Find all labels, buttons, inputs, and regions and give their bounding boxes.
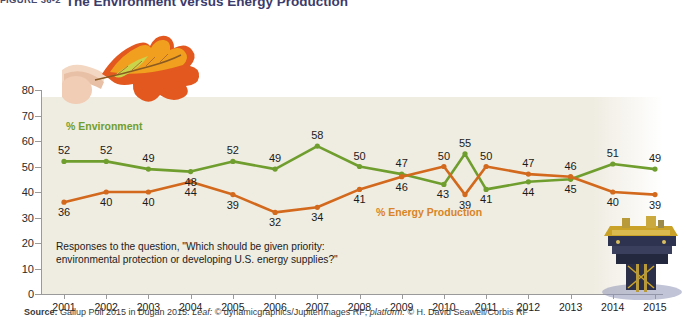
data-point	[462, 192, 467, 197]
data-point	[568, 174, 573, 179]
x-tick	[233, 294, 234, 299]
x-tick	[360, 294, 361, 299]
y-tick	[35, 167, 42, 168]
data-point-label: 58	[302, 130, 332, 141]
data-point	[273, 210, 278, 215]
data-point-label: 40	[91, 197, 121, 208]
data-point	[652, 167, 657, 172]
y-tick-label: 0	[0, 289, 34, 299]
data-point-label: 45	[556, 184, 586, 195]
y-tick	[35, 90, 42, 91]
chart-annotation: Responses to the question, "Which should…	[56, 240, 356, 266]
x-tick	[444, 294, 445, 299]
data-point	[526, 179, 531, 184]
data-point	[230, 192, 235, 197]
data-point	[610, 189, 615, 194]
y-tick	[35, 218, 42, 219]
data-point-label: 47	[513, 158, 543, 169]
y-tick	[35, 294, 42, 295]
source-credit-leaf: Leaf:	[192, 307, 212, 317]
data-point	[146, 167, 151, 172]
data-point-label: 39	[640, 200, 670, 211]
data-point	[484, 164, 489, 169]
x-tick	[148, 294, 149, 299]
data-point-label: 51	[598, 148, 628, 159]
data-point-label: 39	[218, 200, 248, 211]
data-point	[357, 187, 362, 192]
data-point	[357, 164, 362, 169]
data-point	[104, 159, 109, 164]
y-tick-label: 60	[0, 136, 34, 146]
page-title: The Environment versus Energy Production	[66, 0, 348, 9]
data-point-label: 52	[218, 145, 248, 156]
y-tick	[35, 141, 42, 142]
data-point-label: 44	[176, 187, 206, 198]
x-tick	[317, 294, 318, 299]
source-caption: Source: Gallup Poll 2015 in Dugan 2015. …	[24, 307, 692, 317]
oil-platform-icon	[592, 212, 690, 300]
data-point	[315, 205, 320, 210]
data-point-label: 50	[471, 151, 501, 162]
x-tick	[275, 294, 276, 299]
y-tick-label: 70	[0, 111, 34, 121]
source-text-2: © dynamicgraphics/JupiterImages RF;	[212, 307, 370, 317]
data-point-label: 44	[513, 187, 543, 198]
y-tick	[35, 269, 42, 270]
data-point	[484, 187, 489, 192]
data-point-label: 36	[49, 207, 79, 218]
data-point-label: 32	[260, 217, 290, 228]
source-credit-platform: platform:	[370, 307, 405, 317]
y-tick-label: 30	[0, 213, 34, 223]
data-point-label: 41	[345, 194, 375, 205]
x-tick	[106, 294, 107, 299]
data-point	[61, 200, 66, 205]
y-tick-label: 80	[0, 85, 34, 95]
legend-energy-production: % Energy Production	[376, 206, 482, 218]
x-tick	[402, 294, 403, 299]
y-tick-label: 40	[0, 187, 34, 197]
data-point	[610, 161, 615, 166]
data-point-label: 50	[429, 151, 459, 162]
source-text-3: © H. David Seawell/Corbis RF	[405, 307, 528, 317]
data-point-label: 40	[598, 197, 628, 208]
figure-container: FIGURE 36-2The Environment versus Energy…	[0, 0, 692, 324]
x-tick	[486, 294, 487, 299]
y-tick-label: 50	[0, 162, 34, 172]
data-point-label: 50	[345, 151, 375, 162]
data-point-label: 49	[260, 153, 290, 164]
x-tick	[528, 294, 529, 299]
data-point	[146, 189, 151, 194]
legend-environment: % Environment	[66, 120, 142, 132]
x-tick	[191, 294, 192, 299]
data-point-label: 49	[133, 153, 163, 164]
data-point	[61, 159, 66, 164]
data-point	[441, 182, 446, 187]
figure-title-bar: FIGURE 36-2The Environment versus Energy…	[0, 0, 692, 12]
data-point-label: 52	[91, 145, 121, 156]
x-tick	[571, 294, 572, 299]
data-point	[526, 172, 531, 177]
data-point	[104, 189, 109, 194]
y-tick	[35, 243, 42, 244]
data-point	[652, 192, 657, 197]
y-tick	[35, 192, 42, 193]
data-point-label: 46	[556, 161, 586, 172]
data-point	[315, 144, 320, 149]
data-point	[188, 169, 193, 174]
data-point	[441, 164, 446, 169]
data-point-label: 47	[387, 158, 417, 169]
x-tick	[64, 294, 65, 299]
data-point-label: 55	[450, 138, 480, 149]
data-point-label: 46	[387, 182, 417, 193]
source-prefix: Source:	[24, 307, 58, 317]
data-point	[273, 167, 278, 172]
figure-number: FIGURE 36-2	[0, 0, 61, 5]
data-point-label: 34	[302, 212, 332, 223]
y-tick-label: 20	[0, 238, 34, 248]
data-point	[462, 151, 467, 156]
data-point	[230, 159, 235, 164]
data-point-label: 52	[49, 145, 79, 156]
y-tick	[35, 116, 42, 117]
source-text-1: Gallup Poll 2015 in Dugan 2015.	[58, 307, 193, 317]
data-point	[399, 174, 404, 179]
